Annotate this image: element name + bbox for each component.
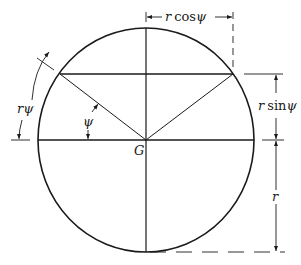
arc-length-label: rψ — [17, 101, 34, 116]
arc-length-arrow-lower — [19, 120, 22, 139]
arc-length-arrow-upper — [32, 52, 49, 100]
center-label: G — [134, 143, 144, 158]
circle-diagram: rcosψ rsinψ r rψ ψ G — [0, 0, 301, 265]
angle-arrow-upper — [92, 104, 98, 112]
radius-right — [146, 74, 233, 140]
angle-label: ψ — [83, 114, 94, 129]
radius-left — [60, 74, 146, 140]
rsin-label: rsinψ — [258, 98, 297, 113]
rcos-label: rcosψ — [165, 9, 207, 24]
radius-label: r — [272, 189, 279, 204]
diagram-canvas: rcosψ rsinψ r rψ ψ G — [0, 0, 301, 265]
